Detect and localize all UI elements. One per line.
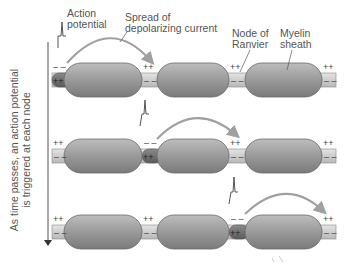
- svg-text:– –: – –: [231, 152, 244, 162]
- svg-text:– –: – –: [144, 138, 157, 148]
- node-leader: [240, 50, 250, 72]
- action-potential-label: Action potential: [67, 8, 107, 30]
- svg-text:++: ++: [53, 76, 64, 86]
- label-line: sheath: [280, 39, 312, 50]
- svg-text:++: ++: [230, 138, 241, 148]
- spread-label: Spread of depolarizing current: [125, 12, 217, 34]
- svg-text:++: ++: [53, 214, 64, 224]
- node-of-ranvier-label: Node of Ranvier: [232, 28, 269, 50]
- row-2: ++ – – – – ++ ++ – – ++ – –: [52, 100, 337, 173]
- svg-text:– –: – –: [144, 76, 157, 86]
- action-potential-icon: [58, 22, 66, 48]
- svg-text:– –: – –: [324, 76, 337, 86]
- spread-arrow: [245, 194, 322, 214]
- svg-text:++: ++: [323, 62, 334, 72]
- time-axis-label: As time passes, an action potential is t…: [8, 52, 32, 248]
- svg-text:++: ++: [323, 138, 334, 148]
- action-potential-icon: [140, 100, 149, 126]
- label-line: As time passes, an action potential: [8, 52, 20, 248]
- svg-text:– –: – –: [231, 214, 244, 224]
- label-line: is triggered at each node: [20, 52, 32, 248]
- svg-text:++: ++: [230, 228, 241, 238]
- label-line: Ranvier: [232, 39, 269, 50]
- svg-text:++: ++: [53, 138, 64, 148]
- row-3: ++ – – ++ – – – – ++ ++ – –: [52, 177, 337, 249]
- svg-text:– –: – –: [144, 228, 157, 238]
- label-line: potential: [67, 19, 107, 30]
- svg-text:++: ++: [143, 214, 154, 224]
- svg-text:++: ++: [143, 152, 154, 162]
- myelin-sheath-label: Myelin sheath: [280, 28, 312, 50]
- svg-text:– –: – –: [54, 152, 67, 162]
- svg-text:++: ++: [230, 62, 241, 72]
- svg-text:++: ++: [143, 62, 154, 72]
- svg-text:– –: – –: [53, 62, 66, 72]
- svg-text:– –: – –: [231, 76, 244, 86]
- spread-arrow: [157, 118, 235, 139]
- stray-mark: [272, 256, 283, 262]
- label-line: depolarizing current: [125, 23, 217, 34]
- svg-text:– –: – –: [324, 228, 337, 238]
- svg-text:++: ++: [323, 214, 334, 224]
- action-potential-icon: [229, 177, 238, 204]
- spread-arrow: [67, 38, 150, 63]
- svg-text:– –: – –: [324, 152, 337, 162]
- svg-text:– –: – –: [54, 228, 67, 238]
